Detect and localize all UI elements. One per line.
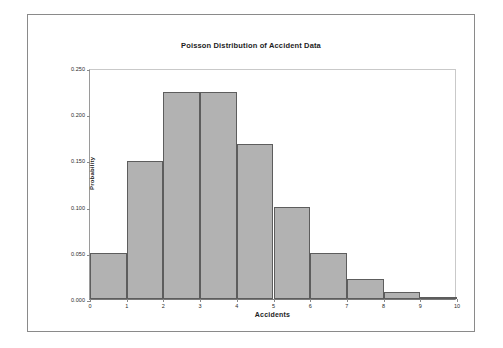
bar — [310, 253, 347, 299]
bar — [420, 297, 457, 299]
x-tick-label: 1 — [125, 303, 128, 309]
x-tick-label: 8 — [382, 303, 385, 309]
x-tick-label: 6 — [309, 303, 312, 309]
x-tick-mark — [420, 299, 421, 302]
x-tick-mark — [347, 299, 348, 302]
bar — [127, 161, 164, 299]
chart-figure: Poisson Distribution of Accident Data Pr… — [28, 15, 474, 331]
x-tick-mark — [90, 299, 91, 302]
document-frame: Poisson Distribution of Accident Data Pr… — [27, 14, 475, 332]
y-tick-label: 0.250 — [71, 66, 85, 72]
bar — [384, 292, 421, 299]
x-tick-label: 3 — [199, 303, 202, 309]
y-tick-mark — [87, 116, 90, 117]
y-tick-label: 0.150 — [71, 158, 85, 164]
x-tick-label: 0 — [88, 303, 91, 309]
bar — [163, 92, 200, 299]
x-tick-label: 7 — [345, 303, 348, 309]
y-tick-label: 0.200 — [71, 112, 85, 118]
bar — [90, 253, 127, 299]
bar — [200, 92, 237, 299]
x-axis-label: Accidents — [90, 311, 455, 318]
x-tick-label: 2 — [162, 303, 165, 309]
x-tick-label: 10 — [454, 303, 460, 309]
bar — [347, 279, 384, 299]
x-tick-label: 9 — [419, 303, 422, 309]
x-tick-mark — [310, 299, 311, 302]
x-tick-mark — [237, 299, 238, 302]
x-tick-label: 5 — [272, 303, 275, 309]
x-tick-label: 4 — [235, 303, 238, 309]
x-tick-mark — [163, 299, 164, 302]
x-tick-mark — [384, 299, 385, 302]
y-tick-mark — [87, 162, 90, 163]
y-tick-mark — [87, 70, 90, 71]
bar — [274, 207, 311, 299]
bar — [237, 144, 274, 299]
plot-inner: Probability 0.0000.0500.1000.1500.2000.2… — [90, 70, 455, 299]
plot-area: Probability 0.0000.0500.1000.1500.2000.2… — [89, 69, 456, 300]
x-tick-mark — [127, 299, 128, 302]
y-tick-label: 0.050 — [71, 251, 85, 257]
y-tick-mark — [87, 209, 90, 210]
chart-title: Poisson Distribution of Accident Data — [28, 41, 474, 50]
y-tick-label: 0.000 — [71, 297, 85, 303]
x-tick-mark — [200, 299, 201, 302]
y-tick-label: 0.100 — [71, 205, 85, 211]
x-tick-mark — [457, 299, 458, 302]
x-tick-mark — [274, 299, 275, 302]
